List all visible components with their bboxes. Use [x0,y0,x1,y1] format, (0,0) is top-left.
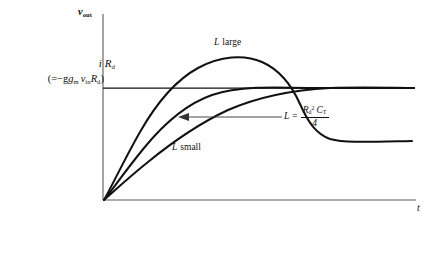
curve-l-large [104,57,412,200]
curve-l-critical [104,87,414,200]
curve-label-formula: L = Rd2CT 4 [284,106,329,129]
level-marker-value: iRd [99,58,115,70]
curve-label-l-small: Lsmall [172,143,201,153]
x-axis-title: t [417,203,420,214]
level-marker-gm-subscript: m [74,78,79,85]
level-marker-expression: (=−ggmvinRd) [18,73,104,85]
l-large-text: large [222,37,241,47]
formula-lhs: L [284,112,289,122]
formula-leader-arrowhead [178,113,189,121]
level-marker-expr-open: (=−g [48,73,69,84]
level-marker-expr-close: ) [101,73,105,84]
y-axis-title: vout [78,6,92,18]
level-marker-current-symbol: i [99,57,102,69]
formula-denominator: 4 [312,118,317,129]
l-small-text: small [180,142,201,152]
curve-label-l-large: Llarge [214,38,241,48]
formula-rd-exponent: 2 [312,105,315,111]
curve-l-small [104,88,414,200]
formula-fraction: Rd2CT 4 [301,106,329,129]
l-small-symbol: L [172,142,177,152]
formula-equals: = [292,112,297,122]
figure-step-response: vout iRd (=−ggmvinRd) Llarge Lsmall L = … [0,0,435,256]
l-large-symbol: L [214,37,219,47]
formula-numerator: Rd2CT [301,106,329,118]
formula-ct-subscript: T [323,109,327,115]
y-axis-title-subscript: out [83,11,92,18]
level-marker-resistance-subscript: d [111,63,115,70]
